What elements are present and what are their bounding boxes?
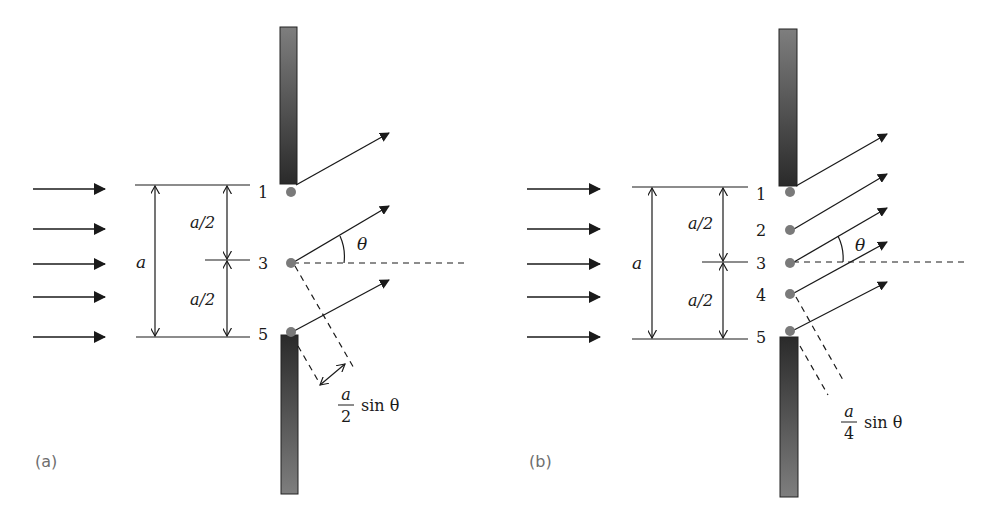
- panel-label-a: (a): [35, 452, 57, 471]
- source-points: [286, 187, 296, 337]
- panel-b: a a/2 a/2 1 2 3 4 5 θ: [527, 29, 964, 497]
- wavefront-dashed-line: [796, 297, 843, 380]
- source-point-1: [785, 187, 795, 197]
- diffracted-ray: [794, 282, 887, 330]
- point-label-5: 5: [756, 328, 766, 347]
- dimension-lines: [135, 185, 250, 337]
- path-difference-label: a 4 sin θ: [841, 402, 902, 443]
- point-label-1: 1: [258, 183, 268, 202]
- panel-label-b: (b): [529, 452, 552, 471]
- slit-barrier-bottom: [281, 335, 298, 494]
- dimension-half-top-label: a/2: [190, 213, 215, 232]
- wavefront-dashed-line: [295, 266, 355, 370]
- angle-theta-label: θ: [855, 235, 865, 255]
- source-point-5: [785, 326, 795, 336]
- path-difference-arrow: [320, 364, 345, 385]
- panel-a: a a/2 a/2 1 3 5 θ: [33, 27, 467, 494]
- diffracted-ray: [794, 174, 887, 229]
- slit-barrier-top: [779, 29, 797, 186]
- dimension-a-label: a: [632, 253, 642, 273]
- angle-theta-label: θ: [357, 234, 367, 254]
- source-point-2: [785, 225, 795, 235]
- dimension-lines: [632, 187, 748, 339]
- incident-wave-arrows: [527, 189, 600, 337]
- diffracted-rays: [294, 133, 389, 331]
- source-point-1: [286, 187, 296, 197]
- sin-theta-text: sin θ: [361, 396, 399, 415]
- source-points: [785, 187, 795, 336]
- diffracted-ray: [296, 133, 389, 185]
- path-difference-lines: [293, 263, 467, 384]
- wavefront-dashed-line: [298, 346, 320, 384]
- slit-barrier-bottom: [780, 337, 798, 497]
- dimension-a-label: a: [136, 252, 146, 272]
- diffracted-ray: [794, 208, 887, 262]
- source-point-3: [286, 258, 296, 268]
- fraction-numerator: a: [341, 385, 351, 404]
- point-label-3: 3: [258, 254, 268, 273]
- fraction-numerator: a: [844, 402, 854, 421]
- path-difference-lines: [793, 262, 964, 395]
- diffracted-ray: [794, 242, 887, 293]
- dimension-half-bottom-label: a/2: [688, 291, 713, 310]
- point-label-1: 1: [756, 185, 766, 204]
- sin-theta-text: sin θ: [864, 413, 902, 432]
- path-difference-label: a 2 sin θ: [338, 385, 399, 426]
- source-point-4: [785, 289, 795, 299]
- diffracted-rays: [794, 134, 887, 330]
- point-label-5: 5: [258, 325, 268, 344]
- diffracted-ray: [294, 280, 389, 331]
- wavefront-dashed-line: [800, 346, 828, 395]
- diffracted-ray: [294, 206, 389, 262]
- point-label-3: 3: [756, 254, 766, 273]
- single-slit-diffraction-diagram: a a/2 a/2 1 3 5 θ: [0, 0, 988, 523]
- incident-wave-arrows: [33, 189, 105, 337]
- dimension-half-top-label: a/2: [688, 214, 713, 233]
- angle-arc: [340, 236, 344, 263]
- slit-barrier-top: [280, 27, 297, 184]
- dimension-half-bottom-label: a/2: [190, 290, 215, 309]
- source-point-3: [785, 258, 795, 268]
- point-label-4: 4: [756, 286, 766, 305]
- point-label-2: 2: [756, 221, 766, 240]
- source-point-5: [286, 327, 296, 337]
- fraction-denominator: 2: [341, 407, 351, 426]
- angle-arc: [838, 236, 843, 262]
- diffracted-ray: [796, 134, 887, 186]
- fraction-denominator: 4: [844, 424, 854, 443]
